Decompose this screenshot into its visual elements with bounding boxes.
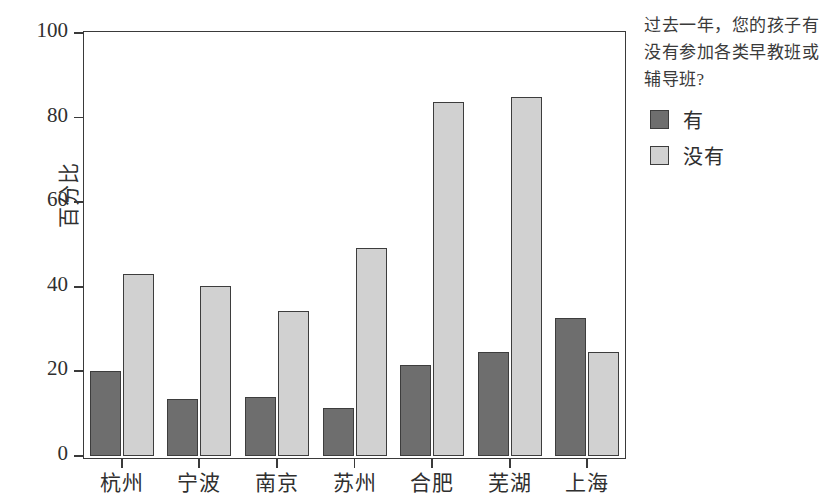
x-tick-label-苏州: 苏州 xyxy=(310,466,400,495)
bar-苏州-没有 xyxy=(356,248,387,456)
y-tick-label: 80 xyxy=(0,103,68,128)
legend-item-有: 有 xyxy=(650,101,834,137)
bar-南京-没有 xyxy=(278,311,309,456)
legend-title-line-2: 没有参加各类早教班或 xyxy=(644,39,830,66)
y-tick-mark xyxy=(74,370,83,372)
legend-label-有: 有 xyxy=(683,105,704,134)
legend-title-line-3: 辅导班? xyxy=(644,66,830,93)
y-tick-mark xyxy=(74,455,83,457)
bar-杭州-有 xyxy=(90,371,121,456)
y-tick-label: 20 xyxy=(0,356,68,381)
x-tick-label-合肥: 合肥 xyxy=(387,466,477,495)
y-tick-label: 0 xyxy=(0,441,68,466)
plot-area xyxy=(83,31,626,459)
x-tick-label-上海: 上海 xyxy=(542,466,632,495)
y-tick-label: 60 xyxy=(0,187,68,212)
bar-芜湖-没有 xyxy=(511,97,542,456)
legend-swatch-没有 xyxy=(650,146,669,165)
y-tick-mark xyxy=(74,201,83,203)
x-tick-label-南京: 南京 xyxy=(232,466,322,495)
legend-label-没有: 没有 xyxy=(683,141,725,170)
bar-苏州-有 xyxy=(323,408,354,456)
y-tick-label: 100 xyxy=(0,18,68,43)
x-tick-label-宁波: 宁波 xyxy=(154,466,244,495)
bar-上海-没有 xyxy=(588,352,619,456)
bar-南京-有 xyxy=(245,397,276,456)
legend-item-没有: 没有 xyxy=(650,137,834,173)
bar-chart-figure: 百分比 020406080100 杭州宁波南京苏州合肥芜湖上海 过去一年，您的孩… xyxy=(0,0,838,495)
legend-title: 过去一年，您的孩子有 没有参加各类早教班或 辅导班? xyxy=(644,12,830,93)
y-tick-mark xyxy=(74,32,83,34)
bar-杭州-没有 xyxy=(123,274,154,456)
y-tick-mark xyxy=(74,117,83,119)
bar-芜湖-有 xyxy=(478,352,509,456)
y-tick-label: 40 xyxy=(0,272,68,297)
x-tick-label-芜湖: 芜湖 xyxy=(465,466,555,495)
legend-swatch-有 xyxy=(650,110,669,129)
bar-合肥-没有 xyxy=(433,102,464,456)
bar-合肥-有 xyxy=(400,365,431,456)
bar-上海-有 xyxy=(555,318,586,456)
legend: 过去一年，您的孩子有 没有参加各类早教班或 辅导班? 有没有 xyxy=(644,12,834,173)
bar-宁波-没有 xyxy=(200,286,231,456)
x-tick-label-杭州: 杭州 xyxy=(77,466,167,495)
legend-title-line-1: 过去一年，您的孩子有 xyxy=(644,12,830,39)
bar-宁波-有 xyxy=(167,399,198,456)
y-tick-mark xyxy=(74,286,83,288)
legend-items: 有没有 xyxy=(644,101,834,173)
